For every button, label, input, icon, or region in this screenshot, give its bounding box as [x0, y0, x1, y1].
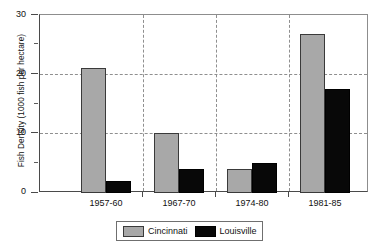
y-axis-title: Fish Density (1000 fish per hectare) [17, 16, 26, 186]
legend-item-louisville: Louisville [188, 226, 257, 237]
x-tick-label-1957-60: 1957-60 [66, 198, 146, 208]
legend-item-cincinnati: Cincinnati [117, 226, 188, 237]
y-tick-label-0: 0 [2, 186, 26, 196]
category-separator-3 [289, 15, 290, 191]
category-separator-2 [216, 15, 217, 191]
x-tick-3 [288, 192, 289, 197]
x-tick-1 [142, 192, 143, 197]
chart-legend: Cincinnati Louisville [116, 221, 263, 241]
y-tick-15 [34, 103, 38, 104]
bar-chart-figure: Fish Density (1000 fish per hectare) 30 … [0, 0, 378, 249]
bar-cincinnati-1981-85 [300, 34, 325, 193]
y-tick-25 [34, 43, 38, 44]
legend-swatch-cincinnati [123, 226, 144, 237]
x-tick-label-1974-80: 1974-80 [212, 198, 292, 208]
bar-louisville-1957-60 [106, 181, 131, 193]
x-tick-label-1981-85: 1981-85 [285, 198, 365, 208]
y-tick-5 [34, 162, 38, 163]
y-tick-0 [31, 192, 38, 193]
y-tick-label-20: 20 [2, 68, 26, 78]
bar-cincinnati-1974-80 [227, 169, 252, 193]
y-tick-10 [31, 132, 38, 133]
bar-louisville-1974-80 [252, 163, 277, 193]
y-tick-20 [31, 73, 38, 74]
x-tick-2 [215, 192, 216, 197]
y-tick-30 [31, 14, 38, 15]
bar-louisville-1967-70 [179, 169, 204, 193]
legend-label-cincinnati: Cincinnati [148, 226, 188, 236]
plot-area [39, 14, 368, 192]
y-tick-label-30: 30 [2, 9, 26, 19]
x-tick-label-1967-70: 1967-70 [139, 198, 219, 208]
bar-cincinnati-1967-70 [154, 133, 179, 193]
legend-swatch-louisville [195, 226, 216, 237]
category-separator-1 [143, 15, 144, 191]
y-tick-label-10: 10 [2, 127, 26, 137]
bar-cincinnati-1957-60 [81, 68, 106, 193]
legend-label-louisville: Louisville [220, 226, 257, 236]
bar-louisville-1981-85 [325, 89, 350, 193]
